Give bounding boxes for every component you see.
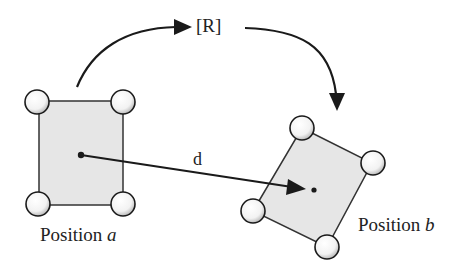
joint-circle — [290, 116, 314, 140]
position-a-label: Position a — [40, 224, 117, 246]
arrowhead-icon — [174, 19, 192, 35]
joint-circle — [26, 192, 50, 216]
joint-circle — [241, 199, 265, 223]
rotation-arrow-left — [77, 19, 192, 87]
position-b-prefix: Position — [358, 214, 425, 235]
position-b-var: b — [425, 214, 435, 235]
rotation-arrow-right — [245, 28, 345, 111]
joint-circle — [25, 90, 49, 114]
position-a-var: a — [107, 224, 117, 245]
joint-circle — [361, 151, 385, 175]
joint-circle — [111, 192, 135, 216]
joint-circle — [111, 90, 135, 114]
center-point-a — [78, 152, 84, 158]
displacement-label: d — [193, 149, 202, 170]
position-b-label: Position b — [358, 214, 435, 236]
joint-circle — [315, 235, 339, 259]
position-a-prefix: Position — [40, 224, 107, 245]
center-point-b — [311, 187, 316, 192]
arrowhead-icon — [329, 93, 345, 111]
body-position-b — [241, 116, 385, 259]
rotation-label: [R] — [196, 15, 221, 37]
